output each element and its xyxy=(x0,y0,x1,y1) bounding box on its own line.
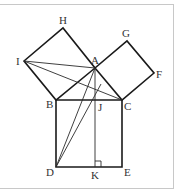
label-F: F xyxy=(156,68,162,80)
label-C: C xyxy=(124,100,131,112)
segment-IC xyxy=(24,61,122,100)
label-B: B xyxy=(46,98,53,110)
label-I: I xyxy=(16,55,20,67)
segment-DJ xyxy=(56,84,101,167)
pythagorean-diagram: A B C D E F G H I J K xyxy=(0,0,179,193)
label-J: J xyxy=(98,101,103,113)
label-A: A xyxy=(91,54,99,66)
label-G: G xyxy=(122,27,130,39)
label-K: K xyxy=(91,169,99,181)
square-ACFG xyxy=(95,41,154,100)
square-ABHI xyxy=(24,28,95,100)
segment-AD xyxy=(56,68,95,167)
label-E: E xyxy=(124,166,131,178)
square-BCED xyxy=(56,100,122,167)
right-angle-marker xyxy=(95,161,101,167)
label-D: D xyxy=(46,166,54,178)
segment-IA xyxy=(24,61,95,68)
label-H: H xyxy=(59,14,67,26)
